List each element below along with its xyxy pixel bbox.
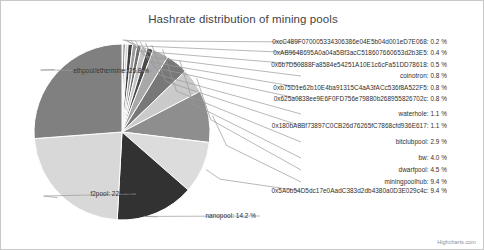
pie-data-label: 0x6b7D50888Fa8584e54251A10E1c6cFa51DD786… bbox=[271, 62, 447, 68]
pie-data-label: 0xb75D1e62b10E4ba91315C4aA3fACc536f8A522… bbox=[273, 85, 447, 91]
pie-data-label: coinotron: 0.8 % bbox=[400, 73, 447, 79]
pie-data-label: 0x180bA8Bf73897C0CB26d76265fC7868cfd936E… bbox=[272, 123, 447, 129]
pie-data-label: dwarfpool: 4.5 % bbox=[399, 167, 447, 173]
pie-slice[interactable] bbox=[34, 132, 122, 220]
chart-container: Hashrate distribution of mining pools 0x… bbox=[0, 0, 484, 250]
chart-title: Hashrate distribution of mining pools bbox=[1, 13, 484, 25]
pie-data-label: waterhole: 1.1 % bbox=[399, 111, 447, 117]
pie-data-label: 0x5A0b54D5dc17e0AadC383d2db4380a0D3E029c… bbox=[272, 188, 448, 194]
pie-data-label: bw: 4.0 % bbox=[418, 155, 447, 161]
pie-data-label: f2pool: 22.6 % bbox=[1, 191, 132, 197]
pie-data-label: 0xAB9648695A0a04a5Bf3acC518607660653d2b3… bbox=[273, 50, 447, 56]
pie-data-label: nanopool: 14.2 % bbox=[1, 213, 256, 219]
pie-slice[interactable] bbox=[34, 44, 122, 139]
pie-data-label: 0x625a0838ee9E6F0FD756e79880b26895582670… bbox=[274, 96, 447, 102]
pie-data-label: 0xcC489F070005334306386e04E5b04d001eD7E0… bbox=[272, 39, 447, 45]
highcharts-credit[interactable]: Highcharts.com bbox=[437, 239, 476, 245]
pie-data-label: miningpoolhub: 9.4 % bbox=[385, 179, 447, 185]
pie-data-label: ethpool/ethermine: 25.8 % bbox=[1, 68, 149, 74]
pie-data-label: bitclubpool: 2.9 % bbox=[396, 139, 447, 145]
